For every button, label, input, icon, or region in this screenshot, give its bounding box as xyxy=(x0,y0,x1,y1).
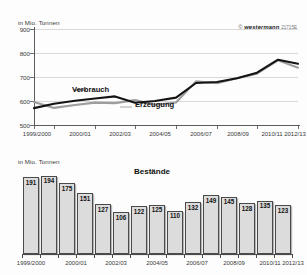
bar-value-2007-08: 110 xyxy=(170,212,180,219)
bar-tick-7 xyxy=(148,254,149,258)
bar-tick-1 xyxy=(40,254,41,258)
bar-tick-9 xyxy=(184,254,185,258)
bar-tick-10 xyxy=(202,254,203,258)
bar-value-2009-10: 149 xyxy=(206,197,217,204)
line-chart-plot xyxy=(0,0,307,150)
bar-chart-title: Bestände xyxy=(134,167,170,176)
line-xtick-2008-09: 2008/09 xyxy=(227,131,249,137)
bar-value-2013-14: 123 xyxy=(278,207,289,214)
bar-tick-8 xyxy=(166,254,167,258)
line-xtick-2002-03: 2002/03 xyxy=(109,131,131,137)
line-xtick-2010-11: 2010/11 xyxy=(261,131,282,137)
bar-xtick-1999-2000: 1999/2000 xyxy=(17,260,45,266)
bar-xtick-2008-09: 2008/09 xyxy=(223,260,245,266)
bar-xtick-2006-07: 2006/07 xyxy=(186,260,208,266)
bar-tick-2 xyxy=(58,254,59,258)
bar-tick-15 xyxy=(292,254,293,258)
bar-value-2011-12: 128 xyxy=(242,205,253,212)
line-xtick-2012-13: 2012/13 xyxy=(284,131,306,137)
bar-2000-01 xyxy=(41,176,57,255)
bar-value-2002-03: 151 xyxy=(80,195,91,202)
bar-chart-baseline xyxy=(22,254,292,255)
line-xtick-2000-01: 2000/01 xyxy=(69,131,91,137)
bar-2009-10 xyxy=(203,195,219,254)
line-chart-panel: in Mio. Tonnen © westermann 21715E 900 8… xyxy=(0,0,307,150)
chart-page: in Mio. Tonnen © westermann 21715E 900 8… xyxy=(0,0,307,275)
bar-tick-12 xyxy=(238,254,239,258)
bar-tick-0 xyxy=(22,254,23,258)
bar-value-2006-07: 125 xyxy=(152,206,163,213)
bar-tick-11 xyxy=(220,254,221,258)
bar-xtick-2004-05: 2004/05 xyxy=(146,260,168,266)
bar-tick-6 xyxy=(130,254,131,258)
line-xtick-1999-2000: 1999/2000 xyxy=(23,131,51,137)
bar-value-2012-13: 135 xyxy=(260,202,271,209)
line-xtick-2004-05: 2004/05 xyxy=(149,131,171,137)
line-xtick-2006-07: 2006/07 xyxy=(190,131,212,137)
bar-tick-3 xyxy=(76,254,77,258)
bar-chart-panel: in Mio. Tonnen Bestände 191 194 175 151 … xyxy=(0,150,307,275)
bar-tick-4 xyxy=(94,254,95,258)
bar-xtick-2010-11: 2010/11 xyxy=(259,260,280,266)
bar-value-2004-05: 106 xyxy=(116,214,127,221)
series-label-erzeugung: Erzeugung xyxy=(135,100,174,109)
bar-value-2005-06: 122 xyxy=(134,208,145,215)
bar-xtick-2012-13: 2012/13 xyxy=(282,260,304,266)
bar-value-2000-01: 194 xyxy=(44,177,55,184)
bar-value-2001-02: 175 xyxy=(62,185,73,192)
line-chart-axes xyxy=(30,27,300,129)
bar-tick-14 xyxy=(274,254,275,258)
bar-xtick-2000-01: 2000/01 xyxy=(65,260,87,266)
bar-2001-02 xyxy=(59,183,75,254)
bar-value-2008-09: 132 xyxy=(188,204,199,211)
bar-value-2010-11: 145 xyxy=(224,198,235,205)
bar-value-2003-04: 127 xyxy=(98,206,109,213)
bar-2002-03 xyxy=(77,193,93,254)
bar-xtick-2002-03: 2002/03 xyxy=(105,260,127,266)
bar-value-1999-2000: 191 xyxy=(26,179,37,186)
bar-chart-unit-label: in Mio. Tonnen xyxy=(18,158,60,165)
bar-tick-5 xyxy=(112,254,113,258)
series-label-verbrauch: Verbrauch xyxy=(72,85,109,94)
bar-tick-13 xyxy=(256,254,257,258)
bar-1999-2000 xyxy=(23,177,39,254)
